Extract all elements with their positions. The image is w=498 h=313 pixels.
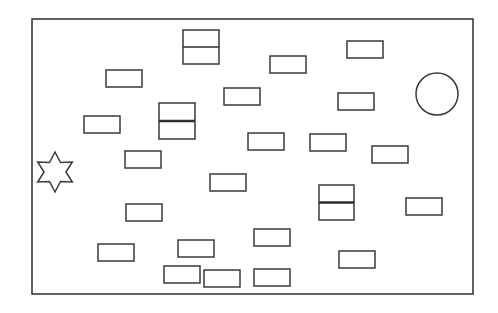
rectangle-box [106,70,142,87]
rectangle-box [406,198,442,215]
circle-shape [416,73,458,115]
rectangle-box [254,229,290,246]
rectangle-box [248,133,284,150]
rectangle-box [125,151,161,168]
stacked-rectangles-group [159,30,354,220]
rectangle-box [178,240,214,257]
stacked-rectangle-pair [183,30,219,64]
diagram-canvas [0,0,498,313]
rectangle-box [338,93,374,110]
rectangle-box [310,134,346,151]
six-point-star-shape [38,152,73,192]
rectangle-box [347,41,383,58]
stacked-rectangle-pair [159,103,195,139]
rectangle-box [98,244,134,261]
rectangle-box [224,88,260,105]
rectangle-box [339,251,375,268]
rectangle-box [210,174,246,191]
rectangle-box [204,270,240,287]
rectangle-box [372,146,408,163]
rectangle-box [84,116,120,133]
rectangle-box [254,269,290,286]
stacked-rectangle-pair [319,185,354,220]
rectangle-box [270,56,306,73]
rectangle-box [126,204,162,221]
single-rectangles-group [84,41,442,287]
rectangle-box [164,266,200,283]
